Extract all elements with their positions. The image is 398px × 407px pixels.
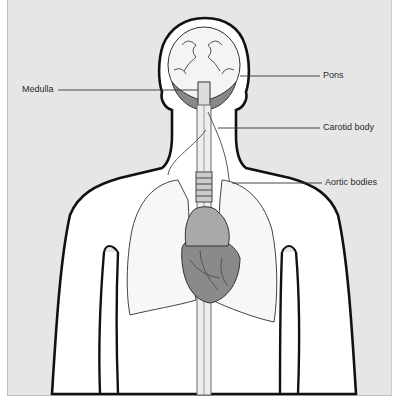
label-pons: Pons [323, 70, 344, 80]
label-carotid-body: Carotid body [323, 122, 374, 132]
left-arm-inner [117, 252, 119, 394]
trachea [196, 172, 212, 202]
label-aortic-bodies: Aortic bodies [325, 177, 377, 187]
body-illustration [0, 0, 398, 407]
label-medulla: Medulla [22, 84, 54, 94]
